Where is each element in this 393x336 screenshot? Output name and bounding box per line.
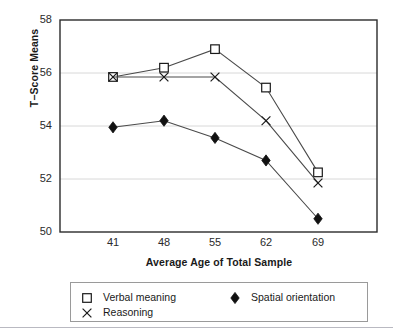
x-tick-label: 69 xyxy=(298,236,338,248)
legend-marker-filled-diamond-icon xyxy=(229,292,243,304)
x-tick-label: 48 xyxy=(144,236,184,248)
line-chart-svg xyxy=(0,0,393,270)
x-tick-label: 62 xyxy=(246,236,286,248)
chart-plot-area: 5052545658 4148556269 T−Score Means Aver… xyxy=(0,0,393,270)
y-axis-title: T−Score Means xyxy=(28,0,40,138)
y-tick-label: 52 xyxy=(22,172,52,184)
chart-legend: Verbal meaningReasoningSpatial orientati… xyxy=(70,282,368,322)
marker-cross-x xyxy=(83,309,92,318)
marker-open-square xyxy=(262,83,271,92)
marker-open-square xyxy=(211,45,220,54)
legend-label: Reasoning xyxy=(103,306,153,318)
marker-filled-diamond xyxy=(231,292,239,303)
legend-label: Spatial orientation xyxy=(251,291,335,303)
legend-label: Verbal meaning xyxy=(103,291,176,303)
legend-marker-cross-x-icon xyxy=(81,307,95,319)
x-axis-title: Average Age of Total Sample xyxy=(60,256,378,268)
legend-marker-open-square-icon xyxy=(81,292,95,304)
x-tick-label: 55 xyxy=(195,236,235,248)
marker-open-square xyxy=(83,294,92,303)
page-divider-rule xyxy=(0,327,393,328)
y-tick-label: 50 xyxy=(22,225,52,237)
x-tick-label: 41 xyxy=(93,236,133,248)
marker-open-square xyxy=(314,168,323,177)
marker-open-square xyxy=(160,63,169,72)
figure-container: 5052545658 4148556269 T−Score Means Aver… xyxy=(0,0,393,336)
